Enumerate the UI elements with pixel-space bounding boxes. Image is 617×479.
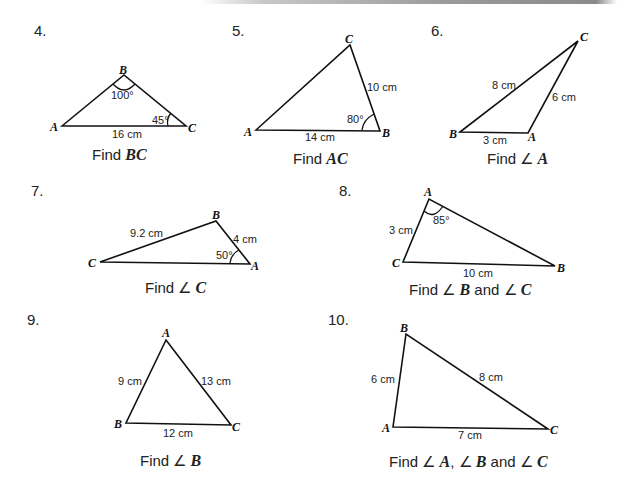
triangle-5: C A B 10 cm 80° 14 cm: [243, 32, 397, 143]
task-6-prefix: Find: [487, 150, 520, 167]
angle-symbol: ∠: [520, 150, 533, 167]
triangle-8-outline: [403, 199, 555, 266]
side-label-10-AC: 7 cm: [458, 429, 482, 441]
side-label-4-AC: 16 cm: [112, 128, 142, 140]
side-label-6-BC: 8 cm: [492, 79, 516, 91]
triangle-10: B A C 6 cm 8 cm 7 cm: [371, 321, 559, 441]
angle-symbol: ∠: [173, 452, 186, 469]
task-5: Find AC: [293, 150, 348, 168]
task-8-joiner: and: [470, 281, 503, 298]
side-label-7-AB: 4 cm: [233, 233, 257, 245]
angle-arc-5-B: [362, 114, 374, 130]
task-10-target-1: A: [440, 453, 451, 470]
task-8: Find ∠ B and ∠ C: [409, 281, 531, 299]
vertex-7-C: C: [88, 256, 97, 270]
vertex-9-C: C: [232, 420, 241, 434]
angle-symbol: ∠: [178, 279, 191, 296]
vertex-6-A: A: [527, 130, 536, 144]
vertex-6-C: C: [580, 30, 589, 44]
task-5-target: AC: [326, 150, 347, 167]
triangle-4: B A C 100° 45° 16 cm: [49, 63, 197, 140]
vertex-4-C: C: [188, 121, 197, 135]
side-label-8-AC: 3 cm: [389, 224, 413, 236]
angle-label-8-A: 85°: [433, 214, 450, 226]
vertex-8-B: B: [556, 261, 565, 275]
angle-symbol: ∠: [504, 281, 517, 298]
task-7: Find ∠ C: [145, 279, 206, 297]
side-label-7-BC: 9.2 cm: [130, 227, 163, 239]
vertex-4-B: B: [118, 63, 127, 77]
task-10: Find ∠ A, ∠ B and ∠ C: [389, 453, 548, 471]
task-4: Find BC: [92, 146, 147, 164]
angle-label-4-B: 100°: [111, 89, 134, 101]
task-6: Find ∠ A: [487, 150, 548, 168]
task-9-prefix: Find: [140, 452, 173, 469]
task-7-prefix: Find: [145, 279, 178, 296]
side-label-6-AC: 6 cm: [552, 91, 576, 103]
triangle-6-outline: [460, 41, 578, 133]
angle-label-7-A: 50°: [216, 249, 233, 261]
side-label-9-BC: 12 cm: [163, 427, 193, 439]
figures: B A C 100° 45° 16 cm C A B 10 cm 80° 14 …: [0, 0, 617, 479]
vertex-7-A: A: [250, 259, 259, 273]
vertex-6-B: B: [448, 127, 457, 141]
task-10-separator: ,: [450, 453, 458, 470]
triangle-7: B C A 9.2 cm 4 cm 50°: [88, 208, 259, 273]
angle-symbol: ∠: [459, 453, 472, 470]
side-label-10-AB: 6 cm: [371, 373, 395, 385]
task-4-target: BC: [125, 146, 146, 163]
task-10-target-2: B: [476, 453, 487, 470]
vertex-8-C: C: [392, 256, 401, 270]
triangle-9: A B C 9 cm 13 cm 12 cm: [113, 326, 241, 439]
side-label-10-BC: 8 cm: [479, 371, 503, 383]
vertex-10-A: A: [381, 421, 390, 435]
angle-symbol: ∠: [520, 453, 533, 470]
vertex-5-C: C: [345, 32, 354, 46]
vertex-9-A: A: [161, 326, 170, 340]
task-9: Find ∠ B: [140, 452, 201, 470]
angle-symbol: ∠: [422, 453, 435, 470]
vertex-9-B: B: [113, 417, 122, 431]
task-10-target-3: C: [537, 453, 548, 470]
angle-symbol: ∠: [442, 281, 455, 298]
task-5-prefix: Find: [293, 150, 326, 167]
side-label-9-AB: 9 cm: [118, 375, 142, 387]
vertex-8-A: A: [423, 185, 432, 199]
vertex-5-A: A: [243, 125, 252, 139]
task-8-prefix: Find: [409, 281, 442, 298]
task-6-target: A: [538, 150, 549, 167]
task-10-joiner: and: [486, 453, 519, 470]
side-label-5-AB: 14 cm: [305, 131, 335, 143]
task-8-target-1: B: [460, 281, 471, 298]
task-7-target: C: [196, 279, 207, 296]
task-4-prefix: Find: [92, 146, 125, 163]
side-label-6-AB: 3 cm: [483, 134, 507, 146]
vertex-10-C: C: [550, 423, 559, 437]
task-9-target: B: [191, 452, 202, 469]
vertex-7-B: B: [211, 208, 220, 222]
side-label-5-BC: 10 cm: [367, 81, 397, 93]
vertex-4-A: A: [49, 120, 58, 134]
angle-label-4-C: 45°: [152, 114, 169, 126]
side-label-8-BC: 10 cm: [463, 267, 493, 279]
side-label-9-AC: 13 cm: [201, 375, 231, 387]
vertex-5-B: B: [381, 126, 390, 140]
triangle-6: C B A 8 cm 6 cm 3 cm: [448, 30, 589, 146]
triangle-8: A C B 85° 3 cm 10 cm: [389, 185, 565, 279]
vertex-10-B: B: [399, 321, 408, 335]
angle-label-5-B: 80°: [347, 113, 364, 125]
triangle-10-outline: [393, 334, 548, 429]
task-8-target-2: C: [521, 281, 532, 298]
task-10-prefix: Find: [389, 453, 422, 470]
